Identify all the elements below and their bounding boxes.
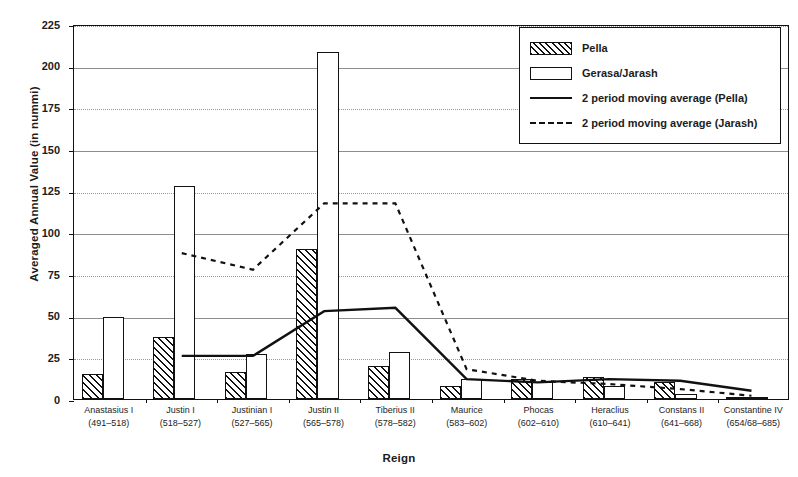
x-tick-mark: [432, 399, 433, 403]
y-tick-label-150: 150: [18, 145, 60, 156]
x-category-label: Maurice(583–602): [431, 404, 503, 429]
x-category-name: Tiberius II: [359, 404, 431, 417]
legend-item-gerasa[interactable]: Gerasa/Jarash: [530, 60, 772, 85]
moving-average-line-jarash: [182, 203, 752, 395]
moving-average-line-pella: [182, 308, 752, 391]
x-category-name: Constans II: [646, 404, 718, 417]
x-tick-mark: [718, 399, 719, 403]
x-category-name: Justinian I: [216, 404, 288, 417]
open-swatch-icon: [530, 67, 572, 79]
x-category-name: Maurice: [431, 404, 503, 417]
dashed-line-icon: [530, 117, 572, 129]
x-category-label: Constans II(641–668): [646, 404, 718, 429]
y-tick-mark: [69, 401, 74, 402]
solid-line-icon: [530, 92, 572, 104]
y-tick-label-75: 75: [18, 270, 60, 281]
y-tick-label-125: 125: [18, 186, 60, 197]
x-category-label: Tiberius II(578–582): [359, 404, 431, 429]
chart-figure: Averaged Annual Value (in nummi) 225 200…: [0, 0, 798, 477]
x-tick-mark: [575, 399, 576, 403]
x-category-name: Phocas: [503, 404, 575, 417]
chart-legend: Pella Gerasa/Jarash 2 period moving aver…: [519, 27, 781, 144]
legend-label: Gerasa/Jarash: [582, 67, 658, 79]
y-tick-label-0: 0: [18, 395, 60, 406]
x-category-label: Justin I(518–527): [145, 404, 217, 429]
y-tick-label-50: 50: [18, 311, 60, 322]
x-category-name: Heraclius: [574, 404, 646, 417]
y-tick-label-175: 175: [18, 103, 60, 114]
x-category-dates: (565–578): [288, 417, 360, 430]
x-category-name: Constantine IV: [717, 404, 789, 417]
x-category-dates: (527–565): [216, 417, 288, 430]
legend-label: 2 period moving average (Pella): [582, 92, 748, 104]
x-category-dates: (654/68–685): [717, 417, 789, 430]
x-category-dates: (583–602): [431, 417, 503, 430]
legend-label: Pella: [582, 42, 608, 54]
x-category-name: Anastasius I: [73, 404, 145, 417]
x-category-label: Heraclius(610–641): [574, 404, 646, 429]
x-category-label: Constantine IV(654/68–685): [717, 404, 789, 429]
x-category-dates: (491–518): [73, 417, 145, 430]
x-category-dates: (602–610): [503, 417, 575, 430]
x-category-label: Justinian I(527–565): [216, 404, 288, 429]
legend-item-ma-pella[interactable]: 2 period moving average (Pella): [530, 85, 772, 110]
x-tick-mark: [289, 399, 290, 403]
x-category-label: Phocas(602–610): [503, 404, 575, 429]
x-category-label: Anastasius I(491–518): [73, 404, 145, 429]
legend-item-pella[interactable]: Pella: [530, 35, 772, 60]
x-tick-mark: [504, 399, 505, 403]
x-category-dates: (578–582): [359, 417, 431, 430]
y-tick-label-25: 25: [18, 353, 60, 364]
x-tick-mark: [217, 399, 218, 403]
x-category-name: Justin II: [288, 404, 360, 417]
y-tick-label-100: 100: [18, 228, 60, 239]
legend-label: 2 period moving average (Jarash): [582, 117, 757, 129]
x-tick-mark: [360, 399, 361, 403]
y-tick-label-225: 225: [18, 20, 60, 31]
x-category-dates: (518–527): [145, 417, 217, 430]
x-category-label: Justin II(565–578): [288, 404, 360, 429]
y-tick-label-200: 200: [18, 61, 60, 72]
x-category-name: Justin I: [145, 404, 217, 417]
x-category-dates: (610–641): [574, 417, 646, 430]
x-tick-mark: [146, 399, 147, 403]
x-category-dates: (641–668): [646, 417, 718, 430]
x-tick-mark: [647, 399, 648, 403]
hatched-swatch-icon: [530, 42, 572, 54]
x-axis-title: Reign: [0, 452, 798, 464]
legend-item-ma-jarash[interactable]: 2 period moving average (Jarash): [530, 110, 772, 135]
